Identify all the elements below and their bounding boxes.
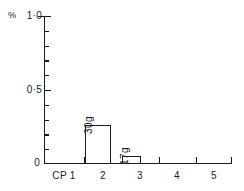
- y-axis-unit-symbol: %: [8, 10, 16, 20]
- y-tick-label-1-0: 1·0: [27, 10, 42, 21]
- y-tick-0-9: [45, 31, 49, 32]
- x-tick-label-5: 5: [194, 170, 234, 181]
- y-tick-label-0: 0: [34, 157, 40, 168]
- x-tick-4: [196, 157, 197, 164]
- x-tick-label-2: 2: [83, 170, 123, 181]
- x-tick-3: [159, 157, 160, 164]
- bar-chart-figure: % 1·0 0·5 0 CP 1 2 3 4 5 30g 17g: [0, 0, 244, 191]
- y-tick-0-1: [45, 149, 49, 150]
- bar-value-label-cp2: 30g: [83, 116, 94, 134]
- bar-value-label-cp3: 17g: [119, 147, 130, 165]
- x-tick-label-cp1: CP 1: [44, 170, 84, 181]
- y-tick-0-3: [45, 120, 49, 121]
- y-tick-0-4: [45, 105, 49, 106]
- y-tick-0-8: [45, 46, 49, 47]
- x-tick-label-3: 3: [120, 170, 160, 181]
- y-tick-0-6: [45, 75, 49, 76]
- x-tick-label-4: 4: [157, 170, 197, 181]
- y-tick-0-7: [45, 60, 49, 61]
- x-axis-right-cap: [231, 157, 232, 164]
- y-tick-0-2: [45, 134, 49, 135]
- y-tick-label-0-5: 0·5: [27, 84, 42, 95]
- x-axis-line: [44, 163, 232, 164]
- y-tick-1-0: [45, 16, 51, 17]
- x-axis-left-cap: [44, 157, 45, 164]
- y-tick-0-5: [45, 90, 51, 91]
